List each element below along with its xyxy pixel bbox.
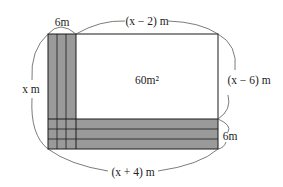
label-right-side: (x − 6) m xyxy=(227,74,270,87)
field-diagram: 6m (x − 2) m x m 60m² (x − 6) m 6m (x + … xyxy=(0,0,283,187)
label-left-side: x m xyxy=(22,83,40,95)
bottom-strip xyxy=(48,119,218,149)
label-area: 60m² xyxy=(135,74,159,86)
brace-top-strip xyxy=(48,27,76,34)
label-top-strip-width: 6m xyxy=(55,16,70,28)
label-bottom-strip-height: 6m xyxy=(223,130,238,142)
label-top-length: (x − 2) m xyxy=(125,15,168,28)
label-bottom-length: (x + 4) m xyxy=(111,166,154,179)
